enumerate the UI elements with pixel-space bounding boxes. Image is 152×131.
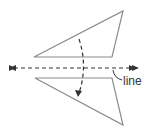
reflection-diagram: line (0, 0, 152, 131)
reflected-triangle (35, 78, 123, 125)
line-label: line (123, 74, 142, 88)
label-leader (113, 70, 122, 80)
right-arrowhead-icon (132, 65, 139, 71)
flip-arrow (79, 39, 84, 93)
left-arrowhead-icon (9, 65, 16, 71)
original-triangle (34, 11, 123, 57)
flip-arrowhead-icon (75, 90, 82, 97)
